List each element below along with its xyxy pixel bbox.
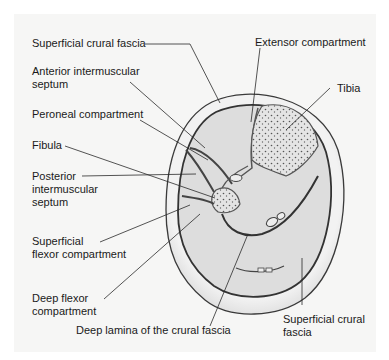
label-deep-lamina: Deep lamina of the crural fascia bbox=[76, 324, 231, 337]
label-posterior-intermuscular-septum: Posterior intermuscular septum bbox=[32, 170, 98, 209]
label-line: fascia bbox=[283, 326, 365, 339]
label-tibia: Tibia bbox=[337, 82, 360, 95]
label-peroneal-compartment: Peroneal compartment bbox=[32, 108, 143, 121]
label-line: Superficial bbox=[32, 235, 126, 248]
leader-superficial-crural-fascia-top bbox=[145, 44, 220, 103]
label-line: intermuscular bbox=[32, 183, 98, 196]
label-line: septum bbox=[32, 78, 140, 91]
label-line: Superficial crural bbox=[283, 313, 365, 326]
anterior-tibial-vessels bbox=[230, 175, 242, 182]
label-deep-flexor-compartment: Deep flexor compartment bbox=[32, 292, 96, 318]
label-line: Anterior intermuscular bbox=[32, 65, 140, 78]
label-anterior-intermuscular-septum: Anterior intermuscular septum bbox=[32, 65, 140, 91]
label-line: Posterior bbox=[32, 170, 98, 183]
label-line: septum bbox=[32, 196, 98, 209]
label-superficial-flexor-compartment: Superficial flexor compartment bbox=[32, 235, 126, 261]
label-superficial-crural-fascia-bottom: Superficial crural fascia bbox=[283, 313, 365, 339]
label-extensor-compartment: Extensor compartment bbox=[255, 36, 366, 49]
label-superficial-crural-fascia-top: Superficial crural fascia bbox=[32, 37, 146, 50]
label-line: flexor compartment bbox=[32, 248, 126, 261]
label-line: compartment bbox=[32, 305, 96, 318]
label-line: Deep flexor bbox=[32, 292, 96, 305]
label-fibula: Fibula bbox=[32, 139, 62, 152]
